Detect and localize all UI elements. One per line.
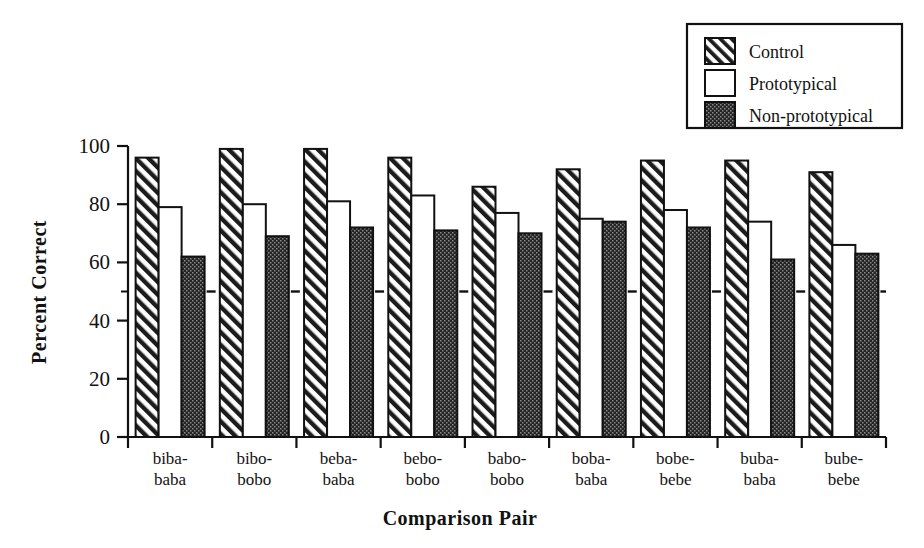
category-label-0-line-1: baba [154,470,187,489]
bar-non-prototypical-8 [855,254,878,437]
x-axis-title: Comparison Pair [383,507,538,530]
bar-chart-svg: 020406080100 biba-bababibo-bobobeba-baba… [0,0,924,548]
category-label-3-line-0: bebo- [403,449,442,468]
category-label-8-line-0: bube- [825,449,864,468]
bar-control-5 [557,169,580,437]
bar-control-7 [725,161,748,437]
category-label-5-line-1: baba [575,470,608,489]
category-label-1-line-1: bobo [237,470,271,489]
category-label-7-line-1: baba [744,470,777,489]
bar-control-2 [304,149,327,437]
category-label-6-line-0: bobe- [656,449,695,468]
y-tick-label-100: 100 [79,134,111,158]
bar-prototypical-6 [664,210,687,437]
category-label-3-line-1: bobo [406,470,440,489]
legend-label-0: Control [749,42,804,62]
chart-legend: ControlPrototypicalNon-prototypical [687,24,902,128]
category-label-5-line-0: boba- [572,449,611,468]
bar-control-1 [220,149,243,437]
bar-prototypical-7 [748,222,771,437]
y-tick-label-60: 60 [89,250,110,274]
category-label-6-line-1: bebe [659,470,691,489]
chart-figure: 020406080100 biba-bababibo-bobobeba-baba… [0,0,924,548]
legend-swatch-open-white-swatch [705,70,735,96]
bar-control-4 [473,187,496,437]
legend-swatch-diagonal-hatch-swatch [705,38,735,64]
bar-prototypical-4 [496,213,519,437]
category-label-2-line-0: beba- [320,449,358,468]
bar-control-6 [641,161,664,437]
y-tick-label-0: 0 [100,425,111,449]
bar-prototypical-5 [580,219,603,437]
y-tick-label-80: 80 [89,192,110,216]
category-label-8-line-1: bebe [828,470,860,489]
bar-non-prototypical-6 [687,227,710,437]
legend-label-2: Non-prototypical [749,106,873,126]
bar-non-prototypical-5 [603,222,626,437]
bar-prototypical-8 [832,245,855,437]
bar-prototypical-0 [159,207,182,437]
y-axis-title: Percent Correct [28,220,50,364]
bar-non-prototypical-2 [350,227,373,437]
y-tick-label-20: 20 [89,367,110,391]
y-tick-label-40: 40 [89,309,110,333]
category-label-4-line-1: bobo [490,470,524,489]
category-label-7-line-0: buba- [740,449,779,468]
bar-non-prototypical-7 [771,259,794,437]
legend-swatch-dark-dotted-swatch [705,102,735,128]
bar-control-3 [388,158,411,437]
bar-non-prototypical-4 [519,233,542,437]
bar-non-prototypical-0 [182,257,205,437]
bar-prototypical-2 [327,201,350,437]
bar-non-prototypical-1 [266,236,289,437]
category-label-4-line-0: babo- [488,449,527,468]
bar-prototypical-1 [243,204,266,437]
category-label-0-line-0: biba- [153,449,188,468]
bar-non-prototypical-3 [434,230,457,437]
bar-control-8 [809,172,832,437]
bar-control-0 [136,158,159,437]
category-label-2-line-1: baba [323,470,356,489]
legend-label-1: Prototypical [749,74,837,94]
category-label-1-line-0: bibo- [236,449,272,468]
bar-prototypical-3 [411,195,434,437]
